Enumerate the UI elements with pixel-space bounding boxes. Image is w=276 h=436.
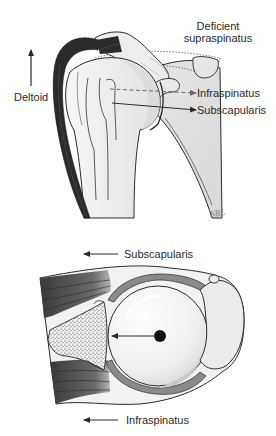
label-infraspinatus-top: Infraspinatus [197,87,260,99]
top-panel-shoulder-coronal [31,32,222,218]
label-supraspinatus-line2: supraspinatus [183,32,253,44]
label-deficient-supraspinatus: Deficient supraspinatus [183,20,253,44]
label-subscapularis-bottom: Subscapularis [124,248,193,260]
label-infraspinatus-bottom: Infraspinatus [126,414,189,426]
shoulder-diagram: Deficient supraspinatus Deltoid Infraspi… [0,0,276,436]
diagram-illustration [0,0,276,436]
biceps-tendon [209,275,219,283]
label-subscapularis-top: Subscapularis [197,104,266,116]
bottom-panel-shoulder-axial [40,254,244,420]
label-deltoid: Deltoid [14,91,48,103]
artist-signature: SBL [209,207,225,219]
label-deficient-line1: Deficient [183,20,253,32]
